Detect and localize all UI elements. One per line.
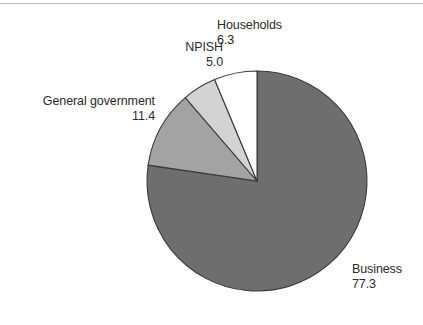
pie-label-business-value: 77.3: [352, 277, 402, 292]
pie-label-general-government-value: 11.4: [43, 109, 155, 124]
pie-label-business: Business 77.3: [352, 262, 402, 292]
pie-label-npish: NPISH 5.0: [185, 40, 223, 70]
pie-label-business-name: Business: [352, 262, 402, 276]
pie-label-npish-value: 5.0: [185, 55, 223, 70]
pie-label-general-government: General government 11.4: [43, 94, 155, 124]
pie-label-general-government-name: General government: [43, 94, 155, 108]
pie-label-households: Households 6.3: [217, 18, 282, 48]
pie-slices: [147, 71, 367, 291]
pie-chart-figure: Households 6.3 NPISH 5.0 General governm…: [0, 0, 423, 325]
pie-label-households-value: 6.3: [217, 33, 282, 48]
pie-label-households-name: Households: [217, 18, 282, 32]
pie-label-npish-name: NPISH: [185, 40, 223, 54]
